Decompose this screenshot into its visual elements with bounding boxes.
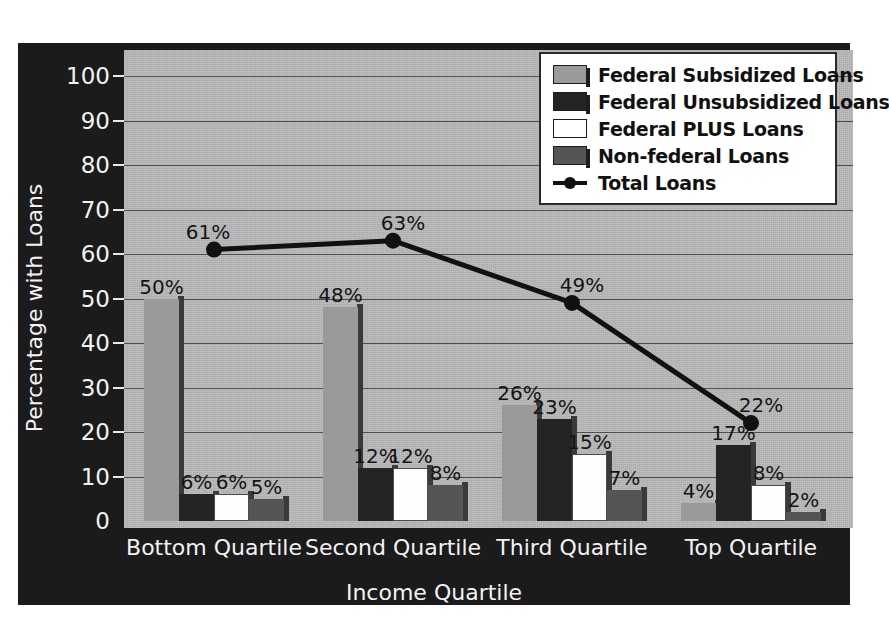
x-axis-tick-label: Top Quartile: [685, 535, 817, 560]
y-axis-tick-label: 60: [81, 243, 110, 266]
line-marker: [385, 233, 401, 249]
legend-line-marker-icon: [553, 173, 587, 192]
y-axis-tick-mark: [113, 209, 124, 211]
y-axis-tick-mark: [113, 253, 124, 255]
y-axis-tick-label: 100: [66, 65, 110, 88]
line-value-label: 63%: [381, 211, 425, 235]
y-axis-tick-label: 20: [81, 421, 110, 444]
legend-item: Federal PLUS Loans: [553, 115, 825, 142]
line-value-label: 49%: [560, 273, 604, 297]
legend-item: Non-federal Loans: [553, 142, 825, 169]
x-axis-tick-label: Second Quartile: [305, 535, 481, 560]
chart-panel: Percentage with Loans 100908070605040302…: [18, 43, 850, 605]
y-axis-tick-mark: [113, 342, 124, 344]
y-axis-tick-label: 70: [81, 198, 110, 221]
bar-value-label: 4%: [683, 479, 715, 503]
y-axis-tick-label: 80: [81, 154, 110, 177]
bar-value-label: 12%: [388, 444, 432, 468]
x-axis-tick-label: Bottom Quartile: [126, 535, 302, 560]
y-axis-tick-mark: [113, 431, 124, 433]
x-axis-title: Income Quartile: [346, 580, 522, 605]
bar-value-label: 23%: [532, 395, 576, 419]
bar-value-label: 6%: [181, 470, 213, 494]
bar-value-label: 5%: [251, 475, 283, 499]
bar-value-label: 8%: [430, 461, 462, 485]
legend-swatch-icon: [553, 146, 587, 165]
line-value-label: 22%: [739, 393, 783, 417]
legend-swatch-icon: [553, 119, 587, 138]
legend-item-label: Non-federal Loans: [598, 145, 789, 167]
legend-item: Federal Unsubsidized Loans: [553, 88, 825, 115]
line-value-label: 61%: [186, 220, 230, 244]
y-axis-tick-mark: [113, 387, 124, 389]
bar-value-label: 8%: [753, 461, 785, 485]
legend-swatch-icon: [553, 92, 587, 111]
y-axis-tick-mark: [113, 164, 124, 166]
chart-legend: Federal Subsidized LoansFederal Unsubsid…: [539, 52, 837, 205]
bar-value-label: 17%: [711, 421, 755, 445]
legend-item-label: Total Loans: [598, 172, 716, 194]
line-marker: [206, 242, 222, 258]
x-axis-tick-label: Third Quartile: [496, 535, 647, 560]
y-axis-tick-mark: [113, 298, 124, 300]
legend-item-label: Federal Unsubsidized Loans: [598, 91, 889, 113]
legend-item-label: Federal PLUS Loans: [598, 118, 803, 140]
legend-item-label: Federal Subsidized Loans: [598, 64, 863, 86]
bar-value-label: 48%: [318, 283, 362, 307]
y-axis-tick-label: 40: [81, 332, 110, 355]
y-axis-tick-label: 50: [81, 287, 110, 310]
plot-area: 50%6%6%5%48%12%12%8%26%23%15%7%4%17%8%2%…: [124, 50, 853, 528]
y-axis-tick-mark: [113, 75, 124, 77]
legend-swatch-icon: [553, 65, 587, 84]
bar-value-label: 6%: [216, 470, 248, 494]
y-axis-tick-label: 0: [95, 510, 110, 533]
legend-item: Total Loans: [553, 169, 825, 196]
legend-item: Federal Subsidized Loans: [553, 61, 825, 88]
y-axis-tick-mark: [113, 476, 124, 478]
y-axis-tick-label: 30: [81, 376, 110, 399]
bar-value-label: 15%: [567, 430, 611, 454]
line-marker: [564, 295, 580, 311]
y-axis-title: Percentage with Loans: [22, 184, 47, 433]
bar-value-label: 2%: [788, 488, 820, 512]
y-axis-tick-label: 90: [81, 109, 110, 132]
bar-value-label: 50%: [139, 275, 183, 299]
bar-value-label: 7%: [609, 466, 641, 490]
y-axis-tick-label: 10: [81, 465, 110, 488]
y-axis-tick-mark: [113, 120, 124, 122]
